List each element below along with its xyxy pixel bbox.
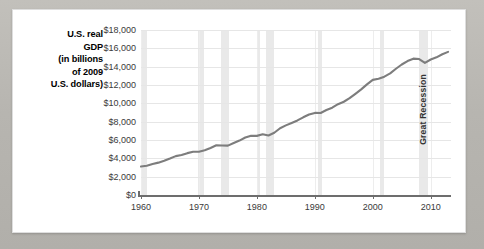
gdp-line-path [141,52,448,167]
y-axis-title-line-1: U.S. real [15,28,103,41]
y-axis-title-line-3: (in billions [15,53,103,66]
y-axis-origin-mark [138,191,140,197]
y-axis-tick-label: $12,000 [103,80,136,90]
y-axis-tick-label: $16,000 [103,43,136,53]
y-axis-tick-label: $2,000 [108,172,136,182]
y-axis-tick-label: $4,000 [108,153,136,163]
x-axis-tick-label: 1980 [247,202,267,212]
x-axis-tick-label: 1960 [131,202,151,212]
y-axis-tick-label: $8,000 [108,117,136,127]
x-axis-tick-label: 1970 [189,202,209,212]
y-axis-tick-label: $14,000 [103,62,136,72]
great-recession-annotation: Great Recession [418,74,428,145]
x-axis-tick-label: 2010 [421,202,441,212]
y-axis-title: U.S. real GDP (in billions of 2009 U.S. … [15,28,103,91]
y-axis-title-line-5: U.S. dollars) [15,78,103,91]
gdp-line-series [141,30,451,195]
y-axis-tick-label: $6,000 [108,135,136,145]
x-axis-tick-label: 2000 [363,202,383,212]
x-axis-line [138,195,451,197]
x-axis-tick-label: 1990 [305,202,325,212]
y-axis-title-line-2: GDP [15,41,103,54]
plot-area: $0$2,000$4,000$6,000$8,000$10,000$12,000… [141,30,451,195]
chart-card: U.S. real GDP (in billions of 2009 U.S. … [12,9,466,233]
y-axis-tick-label: $10,000 [103,98,136,108]
y-axis-tick-label: $18,000 [103,25,136,35]
figure-page: U.S. real GDP (in billions of 2009 U.S. … [0,0,484,249]
y-axis-title-line-4: of 2009 [15,66,103,79]
y-axis-tick-label: $0 [126,190,136,200]
